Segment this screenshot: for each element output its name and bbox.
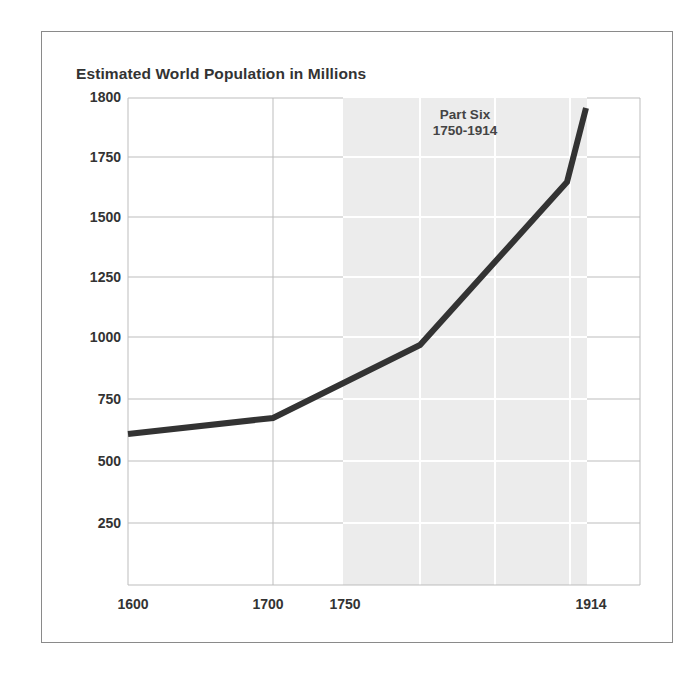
y-tick-label: 1800	[71, 89, 121, 105]
region-label-line1: Part Six	[420, 107, 510, 123]
region-label: Part Six 1750-1914	[420, 107, 510, 139]
x-tick-label: 1600	[103, 596, 163, 612]
y-tick-label: 1250	[71, 269, 121, 285]
y-tick-label: 1000	[71, 329, 121, 345]
x-tick-label: 1750	[315, 596, 375, 612]
highlight-region	[343, 98, 587, 585]
region-label-line2: 1750-1914	[420, 123, 510, 139]
y-tick-label: 500	[71, 453, 121, 469]
y-tick-label: 1500	[71, 209, 121, 225]
y-tick-label: 1750	[71, 149, 121, 165]
y-tick-label: 250	[71, 515, 121, 531]
y-tick-label: 750	[71, 391, 121, 407]
x-tick-label: 1700	[238, 596, 298, 612]
x-tick-label: 1914	[561, 596, 621, 612]
